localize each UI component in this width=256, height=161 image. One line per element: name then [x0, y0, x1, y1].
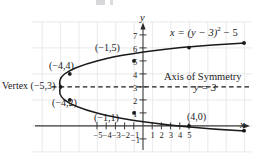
equation-label: x = (y − 3)2 − 5 [170, 26, 238, 38]
point-label-neg4-2: (−4,2) [52, 98, 77, 108]
x-axis-name: x [240, 120, 245, 131]
point-label-neg1-5: (−1,5) [95, 43, 120, 53]
point-end-upper [242, 41, 246, 45]
point-label-neg1-1: (−1,1) [94, 113, 119, 123]
x-tick-label-5: 5 [187, 131, 191, 140]
y-tick-label-7: 7 [133, 32, 137, 41]
axis-of-symmetry-label: Axis of Symmetry [164, 72, 242, 83]
y-axis-name: y [140, 13, 145, 24]
point-4-6 [187, 46, 191, 50]
point-vertex [59, 85, 63, 89]
vertex-label: Vertex (−5,3) [2, 81, 55, 91]
equation-lhs: x = (y − 3) [170, 27, 217, 38]
equation-rhs: − 5 [221, 27, 238, 38]
x-tick-label-1: 1 [150, 131, 154, 140]
x-tick-label-2: 2 [160, 131, 164, 140]
point-4-0 [187, 124, 191, 128]
axis-of-symmetry-equation: y = 3 [194, 83, 216, 94]
y-tick-label-6: 6 [133, 45, 137, 54]
x-tick-label--4: −4 [103, 131, 112, 140]
y-tick-label-4: 4 [133, 71, 137, 80]
x-tick-label--5: −5 [93, 131, 102, 140]
y-axis-arrow [140, 23, 145, 30]
y-tick-label--1: −1 [131, 136, 140, 145]
x-tick-label--2: −2 [121, 131, 130, 140]
x-tick-label-4: 4 [178, 131, 182, 140]
y-tick-label-5: 5 [133, 58, 137, 67]
y-tick-label-3: 3 [133, 84, 137, 93]
figure-page: −5 −4 −3 −2 −1 1 2 3 4 5 7 6 5 4 3 2 1 −… [0, 0, 256, 161]
x-tick-label--3: −3 [112, 131, 121, 140]
y-tick-label-2: 2 [133, 97, 137, 106]
point-label-4-0: (4,0) [187, 112, 206, 122]
point-label-neg4-4: (−4,4) [49, 61, 74, 71]
point-neg4-4 [68, 72, 72, 76]
x-tick-label-3: 3 [169, 131, 173, 140]
y-tick-label-1: 1 [133, 110, 137, 119]
